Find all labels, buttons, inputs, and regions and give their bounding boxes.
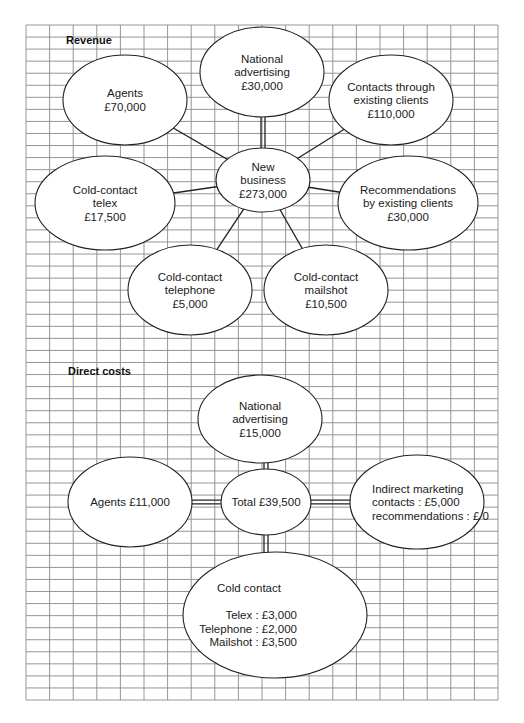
node-label-line: telex: [93, 197, 118, 209]
node-label-line: by existing clients: [363, 197, 453, 209]
node-label-line: £17,500: [84, 211, 126, 223]
node-cold-contact-telephone: Cold-contacttelephone£5,000: [128, 245, 252, 335]
revenue-section-title: Revenue: [66, 34, 112, 46]
node-label-line: Total £39,500: [231, 496, 300, 508]
direct-costs-section-title: Direct costs: [68, 365, 131, 377]
node-label-line: telephone: [165, 284, 216, 296]
node-label-line: Cold-contact: [73, 184, 138, 196]
node-label-line: £70,000: [104, 101, 146, 113]
node-label-line: Agents: [107, 87, 143, 99]
node-label-line: recommendations : £ 0: [372, 510, 489, 522]
node-new-business: Newbusiness£273,000: [216, 148, 310, 212]
node-label-line: Indirect marketing: [372, 483, 463, 495]
node-label-line: advertising: [232, 413, 288, 425]
node-label-line: Cold contact: [217, 582, 282, 594]
node-label-line: £10,500: [305, 298, 347, 310]
node-label-line: Recommendations: [360, 184, 456, 196]
node-contacts-existing-clients: Contacts throughexisting clients£110,000: [329, 55, 453, 145]
node-total: Total £39,500: [221, 469, 311, 535]
node-label-line: contacts : £5,000: [372, 496, 460, 508]
node-label-line: £5,000: [172, 298, 207, 310]
node-label-line: advertising: [234, 66, 290, 78]
node-national-advertising-cost: Nationaladvertising£15,000: [198, 375, 322, 463]
node-label-line: Telephone : £2,000: [199, 623, 297, 635]
node-cold-contact-mailshot: Cold-contactmailshot£10,500: [264, 245, 388, 335]
node-label-line: business: [240, 174, 286, 186]
node-label-line: Mailshot : £3,500: [209, 636, 297, 648]
node-label-line: Telex : £3,000: [225, 609, 297, 621]
node-label-line: £30,000: [241, 80, 283, 92]
node-label-line: mailshot: [305, 284, 349, 296]
node-label-line: Cold-contact: [294, 271, 359, 283]
node-label-line: Contacts through: [347, 81, 435, 93]
business-diagram: Newbusiness£273,000Agents£70,000National…: [0, 0, 524, 723]
node-label-line: £15,000: [239, 427, 281, 439]
node-label-line: £273,000: [239, 188, 287, 200]
node-cold-contact: Cold contactTelex : £3,000Telephone : £2…: [183, 552, 367, 678]
node-label-line: Agents £11,000: [90, 496, 170, 508]
node-national-advertising: Nationaladvertising£30,000: [200, 27, 324, 117]
node-label-line: £30,000: [387, 211, 429, 223]
node-label-line: existing clients: [354, 94, 429, 106]
node-label-line: National: [241, 53, 283, 65]
node-cold-contact-telex: Cold-contacttelex£17,500: [35, 156, 175, 250]
node-agents: Agents£70,000: [63, 55, 187, 145]
node-recommendations-existing-clients: Recommendationsby existing clients£30,00…: [338, 156, 478, 250]
node-label-line: New: [251, 161, 275, 173]
node-agents-cost: Agents £11,000: [68, 457, 192, 547]
node-label-line: National: [239, 400, 281, 412]
node-label-line: Cold-contact: [158, 271, 223, 283]
node-indirect-marketing: Indirect marketingcontacts : £5,000recom…: [350, 455, 489, 549]
node-label-line: £110,000: [367, 108, 414, 120]
